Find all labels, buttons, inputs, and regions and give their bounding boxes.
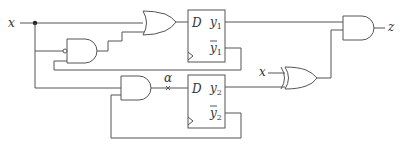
flip-flop-2: D y2 y2 xyxy=(188,75,225,128)
xor-extra-curve xyxy=(281,67,285,89)
flip-flop-1: D y1 y1 xyxy=(188,10,225,62)
circuit-svg: x D y1 y1 α D y2 y2 x xyxy=(0,0,403,149)
logic-circuit-diagram: x D y1 y1 α D y2 y2 x xyxy=(0,0,403,149)
alpha-label: α xyxy=(164,71,172,85)
ff2-d-label: D xyxy=(191,82,202,96)
nand-gate xyxy=(67,39,97,63)
xor-input-x-label: x xyxy=(259,65,266,79)
wire-nand-to-or xyxy=(97,32,145,51)
or-gate xyxy=(143,11,176,35)
and-gate-2 xyxy=(121,76,151,100)
xor-gate xyxy=(285,67,317,89)
ff1-d-label: D xyxy=(191,16,202,30)
output-z-label: z xyxy=(387,20,395,34)
input-x-label: x xyxy=(8,16,15,30)
and-gate-3 xyxy=(343,16,374,40)
nand-inverted-input-bubble xyxy=(63,49,67,53)
wire-xor-to-and3 xyxy=(317,30,343,78)
